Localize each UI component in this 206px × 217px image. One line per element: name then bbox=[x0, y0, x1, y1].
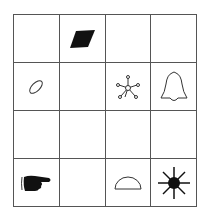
cell-r2-c2 bbox=[106, 111, 152, 159]
cell-r1-c0 bbox=[14, 63, 60, 111]
hub-network-icon bbox=[115, 74, 141, 100]
cell-r2-c1 bbox=[60, 111, 106, 159]
cell-r3-c3 bbox=[151, 159, 197, 207]
cell-r0-c3 bbox=[151, 15, 197, 63]
cell-r0-c0 bbox=[14, 15, 60, 63]
cell-r2-c3 bbox=[151, 111, 197, 159]
cell-r3-c1 bbox=[60, 159, 106, 207]
bell-icon bbox=[159, 70, 189, 104]
cell-r0-c1 bbox=[60, 15, 106, 63]
cell-r1-c1 bbox=[60, 63, 106, 111]
cell-r3-c0 bbox=[14, 159, 60, 207]
cell-r1-c3 bbox=[151, 63, 197, 111]
parallelogram-icon bbox=[67, 29, 97, 49]
starburst-icon bbox=[157, 166, 191, 200]
ellipse-icon bbox=[26, 77, 46, 97]
cell-r1-c2 bbox=[106, 63, 152, 111]
semicircle-icon bbox=[113, 175, 143, 191]
cell-r3-c2 bbox=[106, 159, 152, 207]
symbol-grid bbox=[13, 14, 197, 207]
pointing-hand-icon bbox=[19, 173, 53, 193]
cell-r2-c0 bbox=[14, 111, 60, 159]
cell-r0-c2 bbox=[106, 15, 152, 63]
